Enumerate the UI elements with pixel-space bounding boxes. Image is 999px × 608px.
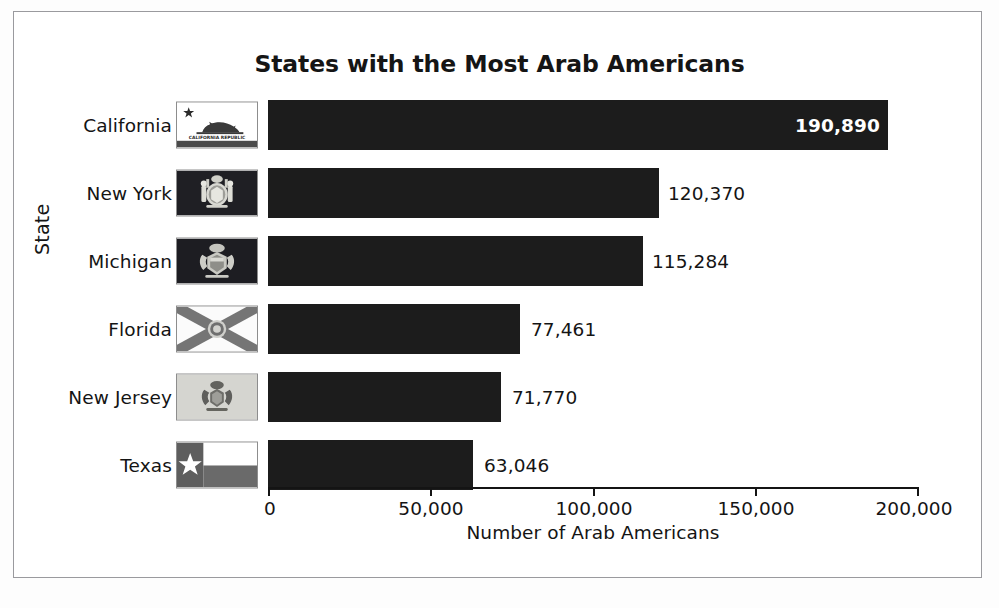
bar-value-california: 190,890: [795, 115, 880, 136]
x-axis-tick-label: 0: [264, 498, 276, 519]
category-label-florida: Florida: [108, 319, 172, 340]
bar-texas: [268, 440, 473, 490]
bar-florida: [268, 304, 520, 354]
category-label-california: California: [83, 115, 172, 136]
x-axis-tick: [430, 487, 432, 496]
bar-new-jersey: [268, 372, 501, 422]
bar-row: Florida 77,461: [0, 304, 999, 354]
svg-text:CALIFORNIA REPUBLIC: CALIFORNIA REPUBLIC: [189, 135, 246, 140]
california-flag-icon: CALIFORNIA REPUBLIC: [176, 102, 258, 149]
bar-value-florida: 77,461: [531, 319, 596, 340]
bar-michigan: [268, 236, 643, 286]
x-axis-tick-label: 200,000: [875, 498, 952, 519]
bar-value-michigan: 115,284: [652, 251, 729, 272]
bar-row: New York 120,370: [0, 168, 999, 218]
bar-row: Texas 63,046: [0, 440, 999, 490]
x-axis-tick: [268, 487, 270, 496]
chart-page: States with the Most Arab Americans Stat…: [0, 0, 999, 608]
x-axis-tick-label: 50,000: [398, 498, 463, 519]
florida-flag-icon: [176, 306, 258, 353]
x-axis-title: Number of Arab Americans: [268, 522, 918, 543]
plot-area: California CALIFORNIA REPUBLIC 190,890 N…: [0, 0, 999, 608]
bar-row: New Jersey 71,770: [0, 372, 999, 422]
x-axis-tick: [755, 487, 757, 496]
category-label-texas: Texas: [120, 455, 172, 476]
category-label-michigan: Michigan: [88, 251, 172, 272]
texas-flag-icon: [176, 442, 258, 489]
x-axis-tick: [917, 487, 919, 496]
bar-row: Michigan 115,284: [0, 236, 999, 286]
new-jersey-flag-icon: [176, 374, 258, 421]
x-axis-tick-label: 100,000: [555, 498, 632, 519]
bar-row: California CALIFORNIA REPUBLIC 190,890: [0, 100, 999, 150]
bar-value-new-york: 120,370: [668, 183, 745, 204]
category-label-new-jersey: New Jersey: [68, 387, 172, 408]
bar-new-york: [268, 168, 659, 218]
bar-value-new-jersey: 71,770: [512, 387, 577, 408]
michigan-flag-icon: [176, 238, 258, 285]
x-axis-tick: [593, 487, 595, 496]
x-axis-tick-label: 150,000: [717, 498, 794, 519]
bar-value-texas: 63,046: [484, 455, 549, 476]
new-york-flag-icon: [176, 170, 258, 217]
category-label-new-york: New York: [86, 183, 172, 204]
